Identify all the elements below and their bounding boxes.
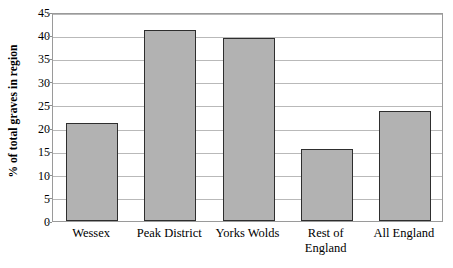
bar-chart: % of total graves in region 051015202530… — [0, 0, 453, 268]
x-axis-category-label: Rest ofEngland — [287, 226, 365, 256]
x-axis-category-label-line: Yorks Wolds — [216, 226, 280, 240]
x-axis-category-label-line: Wessex — [72, 226, 110, 240]
y-axis-title-text: % of total graves in region — [7, 44, 19, 177]
bar — [144, 30, 196, 221]
x-axis-category-labels: WessexPeak DistrictYorks WoldsRest ofEng… — [52, 226, 443, 266]
bar — [66, 123, 118, 221]
plot-area — [52, 13, 443, 222]
y-axis-title: % of total graves in region — [2, 0, 24, 222]
x-axis-category-label-line: Peak District — [137, 226, 202, 240]
x-axis-category-label: Wessex — [52, 226, 130, 241]
x-axis-category-label: Peak District — [130, 226, 208, 241]
bar — [301, 149, 353, 221]
x-axis-category-label-line: All England — [374, 226, 435, 240]
bar — [223, 38, 275, 221]
x-axis-category-label: All England — [365, 226, 443, 241]
bar — [379, 111, 431, 221]
x-axis-category-label-line: England — [287, 241, 365, 256]
bars-layer — [53, 14, 442, 221]
x-axis-category-label-line: Rest of — [308, 226, 344, 240]
x-axis-category-label: Yorks Wolds — [208, 226, 286, 241]
